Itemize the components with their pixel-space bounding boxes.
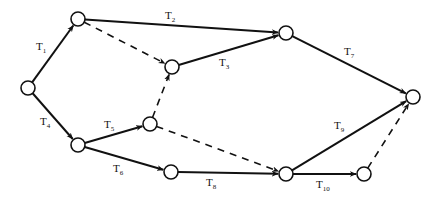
event-node-n7 bbox=[71, 138, 85, 152]
task-edge-n1-n7 bbox=[33, 93, 73, 139]
task-label-t7: T7 bbox=[344, 45, 355, 60]
dummy-edge-n10-n5 bbox=[368, 104, 409, 168]
event-node-n9 bbox=[279, 167, 293, 181]
task-label-t6: T6 bbox=[113, 162, 124, 177]
task-label-t10: T10 bbox=[316, 178, 330, 193]
edges-layer bbox=[32, 19, 409, 174]
task-label-t1: T1 bbox=[36, 40, 47, 55]
dummy-edge-n6-n3 bbox=[153, 74, 170, 117]
task-label-t2: T2 bbox=[165, 9, 176, 24]
event-node-n2 bbox=[71, 12, 85, 26]
task-label-t5: T5 bbox=[104, 118, 115, 133]
event-node-n4 bbox=[279, 26, 293, 40]
task-label-t3: T3 bbox=[219, 56, 230, 71]
event-node-n5 bbox=[406, 90, 420, 104]
task-label-t4: T4 bbox=[40, 115, 51, 130]
task-edge-n8-n9 bbox=[178, 172, 278, 174]
event-node-n1 bbox=[21, 81, 35, 95]
task-label-t8: T8 bbox=[206, 176, 217, 191]
labels-layer: T1T2T3T4T5T6T7T8T9T10 bbox=[36, 9, 355, 193]
task-edge-n1-n2 bbox=[32, 25, 73, 82]
event-node-n10 bbox=[357, 167, 371, 181]
event-node-n8 bbox=[164, 165, 178, 179]
activity-network-diagram: T1T2T3T4T5T6T7T8T9T10 bbox=[0, 0, 438, 199]
task-label-t9: T9 bbox=[334, 119, 345, 134]
event-node-n6 bbox=[143, 117, 157, 131]
task-edge-n9-n5 bbox=[292, 101, 406, 170]
event-node-n3 bbox=[165, 60, 179, 74]
dummy-edge-n6-n9 bbox=[157, 126, 279, 171]
task-edge-n2-n4 bbox=[85, 19, 278, 32]
task-edge-n7-n8 bbox=[85, 147, 164, 170]
dummy-edge-n2-n3 bbox=[84, 22, 165, 63]
nodes-layer bbox=[21, 12, 420, 181]
task-edge-n3-n4 bbox=[179, 35, 279, 65]
